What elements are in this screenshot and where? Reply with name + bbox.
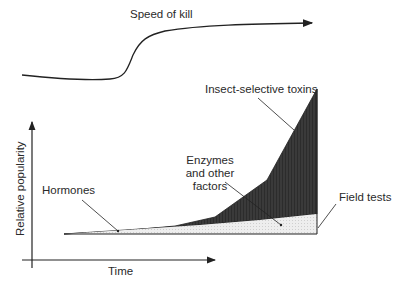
hormones-label: Hormones bbox=[42, 184, 95, 197]
x-axis-label: Time bbox=[108, 265, 133, 278]
hormones-leader bbox=[82, 200, 118, 231]
enzymes-label-line1: Enzymes bbox=[178, 154, 242, 167]
enzymes-label-line3: factors bbox=[178, 180, 242, 193]
speed-of-kill-label: Speed of kill bbox=[130, 8, 193, 21]
toxins-label: Insect-selective toxins bbox=[205, 83, 318, 96]
enzymes-label-line2: and other bbox=[178, 167, 242, 180]
diagram-canvas bbox=[0, 0, 399, 288]
enzymes-label: Enzymes and other factors bbox=[178, 154, 242, 193]
field-tests-label: Field tests bbox=[339, 191, 391, 204]
y-axis-label: Relative popularity bbox=[14, 141, 26, 236]
field-tests-leader bbox=[318, 204, 336, 228]
toxins-leader bbox=[258, 98, 294, 130]
speed-of-kill-curve bbox=[22, 23, 312, 80]
